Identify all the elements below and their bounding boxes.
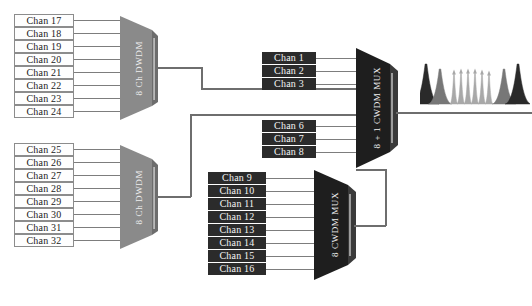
dwdm-lower-shape	[120, 145, 158, 249]
wire-chan-28	[74, 188, 122, 189]
channel-label-chan-14: Chan 14	[208, 237, 266, 249]
channel-label-chan-27: Chan 27	[14, 169, 74, 182]
channel-label-chan-12: Chan 12	[208, 211, 266, 223]
wire-cwdm-lower-out-h2	[356, 169, 386, 171]
wire-chan-14	[266, 243, 316, 244]
wire-chan-11	[266, 204, 316, 205]
wire-chan-31	[74, 227, 122, 228]
block-dwdm-lower: 8 Ch DWDM	[120, 145, 158, 249]
channel-label-chan-16: Chan 16	[208, 263, 266, 275]
channel-label-chan-10: Chan 10	[208, 185, 266, 197]
channel-label-chan-9: Chan 9	[208, 172, 266, 184]
spectrum-peak-arrowhead	[452, 69, 456, 74]
channel-label-chan-3: Chan 3	[262, 78, 316, 90]
channel-label-chan-8: Chan 8	[262, 146, 316, 158]
wire-dwdm-upper-out-v	[201, 67, 203, 89]
wire-chan-18	[74, 33, 122, 34]
wire-dwdm-lower-out-h2	[190, 114, 356, 116]
channel-label-chan-31: Chan 31	[14, 221, 74, 234]
spectrum-peak	[450, 69, 458, 104]
channel-label-chan-2: Chan 2	[262, 65, 316, 77]
wire-chan-26	[74, 162, 122, 163]
wire-chan-2	[316, 71, 358, 72]
wire-chan-23	[74, 98, 122, 99]
wire-chan-32	[74, 240, 122, 241]
channel-label-chan-32: Chan 32	[14, 234, 74, 247]
block-dwdm-upper: 8 Ch DWDM	[120, 16, 158, 120]
spectrum-peak	[478, 69, 486, 104]
wire-chan-1	[316, 58, 358, 59]
channel-label-chan-18: Chan 18	[14, 27, 74, 40]
channel-label-chan-15: Chan 15	[208, 250, 266, 262]
wire-cwdm-main-output	[396, 112, 532, 114]
spectrum-peak	[464, 68, 472, 104]
spectrum-peak	[457, 68, 465, 104]
cwdm-lower-shape	[314, 170, 356, 280]
spectrum-peak-arrowhead	[480, 69, 484, 74]
wire-chan-6	[316, 126, 358, 127]
wire-chan-30	[74, 214, 122, 215]
dwdm-upper-shape	[120, 16, 158, 120]
wire-chan-3	[316, 84, 358, 85]
block-cwdm-lower: 8 CWDM MUX	[314, 170, 356, 280]
channel-label-chan-11: Chan 11	[208, 198, 266, 210]
wire-chan-21	[74, 72, 122, 73]
spectrum-peak-arrowhead	[459, 68, 463, 73]
wire-chan-8	[316, 152, 358, 153]
wire-cwdm-lower-out-h1	[354, 225, 386, 227]
channel-label-chan-25: Chan 25	[14, 143, 74, 156]
channel-label-chan-26: Chan 26	[14, 156, 74, 169]
wire-chan-13	[266, 230, 316, 231]
wire-dwdm-lower-out-v	[190, 114, 192, 197]
channel-label-chan-19: Chan 19	[14, 40, 74, 53]
spectrum-plot	[420, 58, 530, 110]
spectrum-peak-arrowhead	[466, 68, 470, 73]
wire-chan-25	[74, 149, 122, 150]
channel-label-chan-29: Chan 29	[14, 195, 74, 208]
wire-dwdm-lower-out-h1	[156, 196, 191, 198]
output-spectrum	[420, 58, 530, 110]
spectrum-peak	[485, 70, 493, 104]
wire-chan-20	[74, 59, 122, 60]
spectrum-peak-arrowhead	[473, 68, 477, 73]
channel-label-chan-17: Chan 17	[14, 14, 74, 27]
cwdm-main-shape	[356, 48, 398, 168]
channel-label-chan-7: Chan 7	[262, 133, 316, 145]
wire-chan-22	[74, 85, 122, 86]
wire-chan-16	[266, 269, 316, 270]
spectrum-peak	[471, 68, 479, 104]
wire-chan-12	[266, 217, 316, 218]
wire-chan-29	[74, 201, 122, 202]
channel-label-chan-1: Chan 1	[262, 52, 316, 64]
channel-label-chan-28: Chan 28	[14, 182, 74, 195]
channel-label-chan-22: Chan 22	[14, 79, 74, 92]
wire-chan-10	[266, 191, 316, 192]
channel-label-chan-6: Chan 6	[262, 120, 316, 132]
channel-label-chan-23: Chan 23	[14, 92, 74, 105]
channel-label-chan-20: Chan 20	[14, 53, 74, 66]
wire-chan-17	[74, 20, 122, 21]
wire-cwdm-lower-out-v	[385, 169, 387, 226]
wire-chan-9	[266, 178, 316, 179]
diagram-canvas: Chan 17 Chan 18 Chan 19 Chan 20 Chan 21 …	[0, 0, 532, 306]
block-cwdm-main: 8 + 1 CWDM MUX	[356, 48, 398, 168]
channel-label-chan-13: Chan 13	[208, 224, 266, 236]
wire-chan-7	[316, 139, 358, 140]
spectrum-peak-arrowhead	[487, 70, 491, 75]
wire-chan-27	[74, 175, 122, 176]
wire-chan-15	[266, 256, 316, 257]
channel-label-chan-30: Chan 30	[14, 208, 74, 221]
wire-dwdm-upper-out-h1	[156, 67, 202, 69]
wire-chan-19	[74, 46, 122, 47]
channel-label-chan-21: Chan 21	[14, 66, 74, 79]
wire-chan-24	[74, 111, 122, 112]
channel-label-chan-24: Chan 24	[14, 105, 74, 118]
